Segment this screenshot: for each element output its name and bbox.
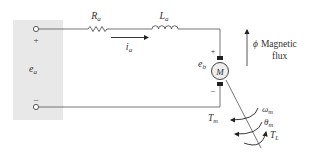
- motor-brush-bottom: [217, 82, 223, 86]
- motor-minus: –: [210, 86, 216, 95]
- omega-label: ωm: [262, 104, 273, 115]
- inductor-icon: [152, 26, 178, 29]
- motor-label: M: [215, 67, 224, 77]
- inductor-label: La: [158, 10, 169, 23]
- negative-terminal: [33, 104, 38, 109]
- circuit-wires: [39, 29, 220, 107]
- flux-label: ϕMagnetic: [253, 39, 297, 49]
- motor-plus: +: [211, 47, 216, 56]
- back-emf-label: eb: [198, 58, 206, 71]
- theta-label: θm: [264, 117, 273, 128]
- source-plus: +: [33, 35, 38, 45]
- positive-terminal: [33, 26, 38, 31]
- resistor-icon: [88, 27, 109, 32]
- flux-label-line2: flux: [272, 51, 288, 61]
- omega-arc: [231, 108, 258, 120]
- motor-torque-label: Tm: [208, 113, 218, 124]
- source-minus: –: [33, 94, 39, 104]
- load-torque-arc: [244, 132, 266, 145]
- motor-brush-top: [217, 56, 223, 60]
- resistor-label: Ra: [90, 10, 101, 23]
- current-label: ia: [126, 41, 133, 54]
- load-torque-label: TL: [270, 130, 279, 141]
- motor-shaft: [226, 80, 261, 148]
- dc-motor-diagram: + – ea Ra La ia M + – eb ϕMagnetic flux …: [0, 0, 315, 157]
